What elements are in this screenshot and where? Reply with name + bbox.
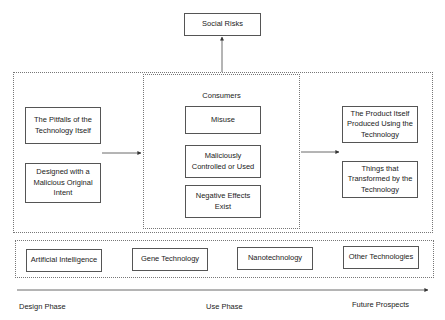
product-itself-box: The Product Itself Produced Using the Te… [342, 106, 418, 143]
ai-label: Artificial Intelligence [31, 255, 97, 266]
pitfalls-box: The Pitfalls of the Technology Itself [25, 107, 101, 144]
misuse-box: Misuse [185, 106, 261, 134]
social-risks-box: Social Risks [184, 13, 261, 36]
product-itself-label: The Product Itself Produced Using the Te… [346, 109, 414, 141]
consumers-title: Consumers [143, 91, 300, 100]
things-transformed-box: Things that Transformed by the Technolog… [342, 161, 418, 198]
gene-technology-label: Gene Technology [141, 254, 199, 265]
use-phase-label: Use Phase [206, 302, 243, 311]
nanotechnology-box: Nanotechnology [237, 247, 313, 270]
ai-box: Artificial Intelligence [26, 249, 102, 272]
things-transformed-label: Things that Transformed by the Technolog… [346, 164, 414, 196]
malicious-intent-label: Designed with a Malicious Original Inten… [29, 167, 97, 199]
negative-effects-label: Negative Effects Exist [189, 191, 257, 212]
design-phase-label: Design Phase [19, 302, 66, 311]
misuse-label: Misuse [211, 115, 235, 126]
other-technologies-box: Other Technologies [343, 246, 419, 269]
maliciously-controlled-box: Maliciously Controlled or Used [185, 145, 261, 178]
other-technologies-label: Other Technologies [349, 252, 414, 263]
gene-technology-box: Gene Technology [132, 248, 208, 271]
nanotechnology-label: Nanotechnology [248, 253, 302, 264]
maliciously-controlled-label: Maliciously Controlled or Used [189, 151, 257, 172]
social-risks-label: Social Risks [202, 19, 243, 30]
malicious-intent-box: Designed with a Malicious Original Inten… [25, 163, 101, 203]
negative-effects-box: Negative Effects Exist [185, 185, 261, 218]
future-prospects-label: Future Prospects [352, 300, 409, 309]
pitfalls-label: The Pitfalls of the Technology Itself [29, 115, 97, 136]
